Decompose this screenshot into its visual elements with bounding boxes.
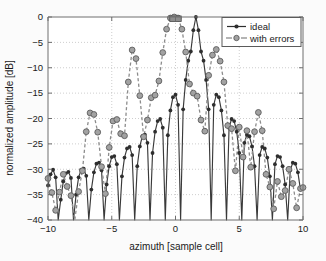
data-point-ideal (112, 154, 116, 158)
data-point-ideal (191, 28, 195, 32)
data-point-ideal (263, 147, 267, 151)
data-point-ideal (273, 162, 277, 166)
data-point-with-errors (152, 92, 158, 98)
data-point-ideal (207, 107, 211, 111)
data-point-with-errors (282, 188, 288, 194)
data-point-ideal (181, 107, 185, 111)
data-point-ideal (217, 95, 221, 99)
data-point-with-errors (179, 26, 185, 32)
data-point-ideal (250, 145, 254, 149)
data-point-ideal (130, 153, 134, 157)
data-point-with-errors (194, 93, 200, 99)
data-point-with-errors (240, 154, 246, 160)
legend-sample-ideal-marker (234, 24, 238, 28)
data-point-with-errors (263, 171, 269, 177)
data-point-with-errors (221, 79, 227, 85)
data-point-ideal (169, 108, 173, 112)
data-point-with-errors (202, 128, 208, 134)
data-point-ideal (105, 183, 109, 187)
data-point-ideal (202, 59, 206, 63)
data-point-ideal (235, 130, 239, 134)
data-point-ideal (77, 175, 81, 179)
data-point-with-errors (122, 133, 128, 139)
data-point-ideal (151, 151, 155, 155)
x-tick-label: 5 (237, 223, 242, 234)
data-point-with-errors (102, 191, 108, 197)
y-axis-title: normalized amplitude [dB] (4, 60, 15, 176)
data-point-with-errors (64, 184, 70, 190)
data-point-with-errors (248, 164, 254, 170)
data-point-ideal (120, 174, 124, 178)
y-tick-label: −5 (32, 37, 43, 48)
data-point-with-errors (91, 112, 97, 118)
data-point-ideal (184, 78, 188, 82)
chart-legend: ideal with errors (222, 18, 301, 47)
data-point-ideal (197, 28, 201, 32)
legend-sample-errors-marker (234, 35, 239, 40)
data-point-with-errors (145, 117, 151, 123)
data-point-with-errors (217, 58, 223, 64)
legend-label-ideal: ideal (250, 21, 270, 32)
data-point-with-errors (114, 117, 120, 123)
data-point-ideal (293, 162, 297, 166)
legend-label-with-errors: with errors (249, 33, 295, 44)
y-tick-label: −15 (27, 87, 43, 98)
data-point-ideal (153, 130, 157, 134)
data-point-ideal (84, 174, 88, 178)
data-point-ideal (281, 164, 285, 168)
data-point-ideal (258, 153, 262, 157)
data-point-with-errors (275, 179, 281, 185)
data-point-with-errors (106, 145, 112, 151)
data-point-with-errors (53, 207, 59, 213)
data-point-ideal (161, 126, 165, 130)
data-point-with-errors (129, 47, 135, 53)
data-point-with-errors (125, 79, 131, 85)
data-point-with-errors (76, 189, 82, 195)
data-point-ideal (92, 170, 96, 174)
x-tick-label: 10 (298, 223, 309, 234)
y-tick-label: −10 (27, 62, 43, 73)
azimuth-pattern-chart: −10−505100−5−10−15−20−25−30−35−40 azimut… (0, 0, 326, 261)
data-point-ideal (296, 170, 300, 174)
data-point-with-errors (160, 50, 166, 56)
data-point-ideal (189, 50, 193, 54)
data-point-with-errors (68, 193, 74, 199)
data-point-ideal (199, 50, 203, 54)
data-point-ideal (242, 141, 246, 145)
data-point-with-errors (99, 164, 105, 170)
data-point-with-errors (80, 168, 86, 174)
data-point-ideal (107, 164, 111, 168)
data-point-with-errors (57, 189, 63, 195)
data-point-with-errors (229, 126, 235, 132)
data-point-with-errors (233, 168, 239, 174)
data-point-ideal (146, 141, 150, 145)
data-point-ideal (89, 188, 93, 192)
data-point-ideal (135, 164, 139, 168)
data-point-ideal (265, 156, 269, 160)
chart-figure: −10−505100−5−10−15−20−25−30−35−40 azimut… (0, 0, 326, 261)
data-point-with-errors (141, 134, 147, 140)
data-point-with-errors (210, 52, 216, 58)
data-point-with-errors (286, 166, 292, 172)
data-point-ideal (220, 108, 224, 112)
data-point-with-errors (183, 49, 189, 55)
data-point-with-errors (156, 78, 162, 84)
data-point-ideal (176, 103, 180, 107)
x-tick-label: 0 (173, 223, 178, 234)
y-tick-label: −25 (27, 138, 43, 149)
data-point-ideal (61, 180, 65, 184)
data-point-with-errors (60, 171, 66, 177)
data-point-with-errors (244, 128, 250, 134)
data-point-with-errors (83, 129, 89, 135)
data-point-with-errors (255, 110, 261, 116)
data-point-with-errors (267, 184, 273, 190)
data-point-ideal (248, 134, 252, 138)
data-point-with-errors (213, 47, 219, 53)
data-point-ideal (51, 168, 55, 172)
data-point-with-errors (137, 93, 143, 99)
data-point-ideal (54, 175, 58, 179)
data-point-ideal (237, 151, 241, 155)
data-point-with-errors (252, 129, 258, 135)
data-point-ideal (69, 176, 73, 180)
data-point-ideal (222, 133, 226, 137)
